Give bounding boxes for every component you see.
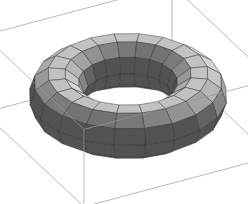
torus-face: [119, 74, 135, 85]
torus-mesh-faces: [30, 34, 227, 159]
torus-face: [114, 128, 145, 145]
torus-face: [191, 66, 208, 79]
torus-face: [114, 34, 139, 43]
torus-face: [117, 105, 142, 114]
bounding-box-edge: [84, 157, 248, 204]
torus-3d-scene: [0, 0, 248, 204]
torus-face: [105, 58, 121, 77]
torus-face: [119, 57, 135, 74]
figure-canvas: [0, 0, 248, 204]
bounding-box-edge: [0, 0, 172, 35]
torus-face: [48, 68, 65, 81]
torus-face: [134, 57, 150, 76]
torus-face: [115, 113, 144, 129]
torus-face: [117, 42, 137, 58]
torus-face: [114, 145, 145, 157]
